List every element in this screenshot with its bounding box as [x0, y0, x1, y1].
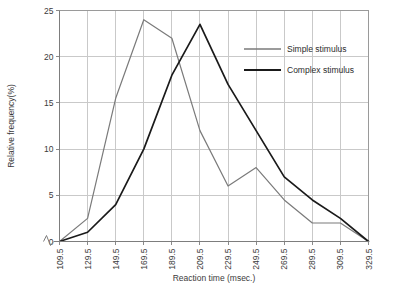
- x-tick-label: 289.5: [307, 248, 317, 270]
- relative-frequency-line-chart: 0510152025 109.5129.5149.5169.5189.5209.…: [0, 0, 400, 286]
- x-tick-label: 249.5: [251, 248, 261, 270]
- legend-label: Complex stimulus: [287, 65, 354, 75]
- x-tick-label: 329.5: [364, 248, 374, 270]
- y-axis-title: Relative frequency(%): [6, 84, 16, 168]
- x-tick-label: 169.5: [139, 248, 149, 270]
- x-tick-label: 129.5: [83, 248, 93, 270]
- y-tick-label: 5: [49, 190, 54, 200]
- x-tick-label: 229.5: [223, 248, 233, 270]
- y-tick-label: 20: [44, 52, 54, 62]
- x-tick-label: 189.5: [167, 248, 177, 270]
- chart-container: 0510152025 109.5129.5149.5169.5189.5209.…: [0, 0, 400, 286]
- x-axis-title: Reaction time (msec.): [173, 273, 256, 283]
- x-tick-label: 309.5: [335, 248, 345, 270]
- legend-label: Simple stimulus: [287, 44, 347, 54]
- x-tick-label: 109.5: [55, 248, 65, 270]
- y-tick-label: 10: [44, 144, 54, 154]
- x-tick-label: 269.5: [279, 248, 289, 270]
- x-tick-label: 209.5: [195, 248, 205, 270]
- y-tick-label: 25: [44, 6, 54, 16]
- y-tick-label: 15: [44, 98, 54, 108]
- x-tick-label: 149.5: [111, 248, 121, 270]
